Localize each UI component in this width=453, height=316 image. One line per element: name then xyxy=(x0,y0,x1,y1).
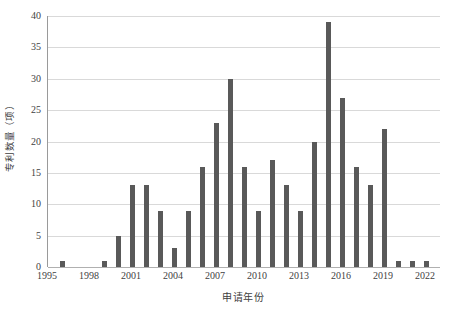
bar xyxy=(284,185,289,267)
y-axis-tick-labels: 0510152025303540 xyxy=(18,0,44,272)
bar xyxy=(200,167,205,267)
bar xyxy=(242,167,247,267)
x-tick-label: 2001 xyxy=(121,270,141,282)
bars-layer xyxy=(48,16,440,267)
y-axis-title-text: 专利数量（项） xyxy=(2,100,16,172)
bar xyxy=(368,185,373,267)
x-axis-tick-labels: 1995199820012004200720102013201620192022 xyxy=(47,270,439,286)
plot-area xyxy=(47,16,440,267)
bar xyxy=(424,261,429,267)
bar xyxy=(60,261,65,267)
y-tick-label: 25 xyxy=(31,105,41,115)
x-tick-label: 2004 xyxy=(163,270,183,282)
x-tick-label: 2010 xyxy=(247,270,267,282)
y-tick-label: 20 xyxy=(31,137,41,147)
bar xyxy=(270,160,275,267)
x-tick-label: 1995 xyxy=(37,270,57,282)
bar xyxy=(256,211,261,267)
bar xyxy=(228,79,233,267)
y-tick-label: 30 xyxy=(31,74,41,84)
patent-count-bar-chart: 专利数量（项） 0510152025303540 199519982001200… xyxy=(0,0,453,316)
bar xyxy=(186,211,191,267)
x-tick-label: 2019 xyxy=(373,270,393,282)
bar xyxy=(214,123,219,267)
bar xyxy=(158,211,163,267)
y-axis-title: 专利数量（项） xyxy=(0,0,18,272)
bar xyxy=(396,261,401,267)
x-axis-title: 申请年份 xyxy=(47,289,439,304)
y-tick-label: 10 xyxy=(31,199,41,209)
bar xyxy=(354,167,359,267)
y-tick-label: 15 xyxy=(31,168,41,178)
x-tick-label: 2022 xyxy=(415,270,435,282)
bar xyxy=(382,129,387,267)
gridline xyxy=(48,267,440,268)
x-tick-label: 2016 xyxy=(331,270,351,282)
bar xyxy=(410,261,415,267)
bar xyxy=(172,248,177,267)
bar xyxy=(130,185,135,267)
bar xyxy=(312,142,317,268)
bar xyxy=(102,261,107,267)
bar xyxy=(116,236,121,267)
x-tick-label: 1998 xyxy=(79,270,99,282)
y-tick-label: 5 xyxy=(36,231,41,241)
y-tick-label: 35 xyxy=(31,42,41,52)
bar xyxy=(326,22,331,267)
x-tick-label: 2007 xyxy=(205,270,225,282)
bar xyxy=(298,211,303,267)
x-tick-label: 2013 xyxy=(289,270,309,282)
bar xyxy=(144,185,149,267)
bar xyxy=(340,98,345,267)
y-tick-label: 40 xyxy=(31,11,41,21)
